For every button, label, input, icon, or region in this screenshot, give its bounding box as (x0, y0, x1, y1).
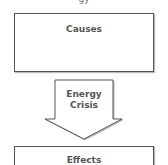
down-arrow-icon (0, 0, 168, 165)
effects-box: Effects (14, 146, 154, 165)
effects-label: Effects (15, 155, 153, 165)
arrow-label-line2: Crisis (55, 100, 113, 111)
arrow-label-line1: Energy (55, 89, 113, 100)
